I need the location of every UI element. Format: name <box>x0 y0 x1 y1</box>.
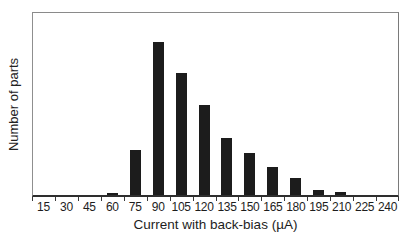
bar-120 <box>199 105 210 195</box>
bar-75 <box>130 150 141 195</box>
x-tick-label-165: 165 <box>261 201 284 213</box>
bar-195 <box>313 190 324 195</box>
bar-90 <box>153 42 164 195</box>
y-axis-label-wrap: Number of parts <box>2 12 26 197</box>
x-tick-label-105: 105 <box>170 201 193 213</box>
x-tick-label-240: 240 <box>376 201 399 213</box>
x-tick-label-90: 90 <box>147 201 170 213</box>
bar-135 <box>221 138 232 195</box>
y-axis-label: Number of parts <box>7 58 22 151</box>
x-tick-label-210: 210 <box>330 201 353 213</box>
bar-150 <box>244 153 255 195</box>
plot-area <box>32 12 399 197</box>
bar-105 <box>176 73 187 195</box>
x-tick-label-225: 225 <box>353 201 376 213</box>
histogram-figure: Number of parts 153045607590105120135150… <box>0 0 414 245</box>
x-tick-label-60: 60 <box>101 201 124 213</box>
x-tick-label-135: 135 <box>216 201 239 213</box>
x-tick-label-30: 30 <box>55 201 78 213</box>
x-tick-label-195: 195 <box>307 201 330 213</box>
x-tick-label-15: 15 <box>32 201 55 213</box>
x-axis-title: Current with back-bias (µA) <box>32 217 399 232</box>
bar-210 <box>335 192 346 195</box>
x-tick-label-45: 45 <box>78 201 101 213</box>
x-tick-label-75: 75 <box>124 201 147 213</box>
x-tick-label-180: 180 <box>284 201 307 213</box>
bar-165 <box>267 167 278 195</box>
bar-180 <box>290 178 301 195</box>
bar-60 <box>107 193 118 195</box>
x-tick-label-150: 150 <box>238 201 261 213</box>
x-tick-labels: 1530456075901051201351501651801952102252… <box>32 201 399 213</box>
x-tick-label-120: 120 <box>193 201 216 213</box>
